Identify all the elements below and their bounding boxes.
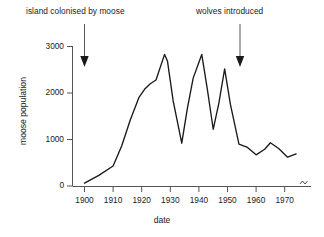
- annotation-island-colonised-label: island colonised by moose: [26, 6, 125, 16]
- chart-figure: island colonised by moose wolves introdu…: [0, 0, 324, 237]
- annotation-wolves-introduced-label: wolves introduced: [196, 6, 263, 16]
- y-tick-label-0: 0: [20, 180, 64, 190]
- y-axis-title: moose population: [18, 46, 28, 176]
- x-axis-title: date: [0, 215, 324, 225]
- x-tick-label-1970: 1970: [265, 195, 305, 205]
